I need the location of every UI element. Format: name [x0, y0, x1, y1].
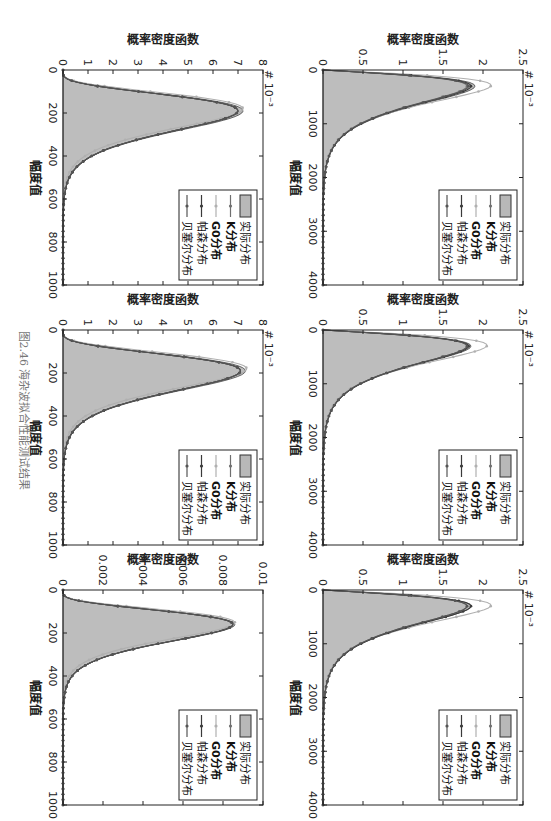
- y-tick-label: 3: [131, 59, 144, 66]
- chart-panel-row1-col2: 00.511.522.510002000300040000# 10⁻³幅度值概率…: [282, 300, 531, 555]
- legend-label: 贝塞尔分布: [440, 741, 454, 796]
- y-tick-label: 8: [256, 319, 269, 326]
- legend-label: K分布: [484, 741, 498, 772]
- y-tick-label: 0.5: [356, 309, 369, 327]
- x-tick-label: 600: [46, 449, 59, 470]
- legend-label: G0分布: [469, 741, 483, 780]
- y-tick-label: 2: [106, 319, 119, 326]
- x-tick-label: 2000: [306, 424, 319, 452]
- rotated-page: 00.511.522.510002000300040000# 10⁻³幅度值概率…: [0, 0, 551, 821]
- legend-label: 实际分布: [498, 741, 512, 785]
- chart-svg: 01234567820040060080010000# 10⁻³幅度值概率密度函…: [26, 40, 271, 295]
- legend-label: K分布: [484, 481, 498, 512]
- legend-label: 贝塞尔分布: [180, 741, 194, 796]
- y-tick-label: 4: [156, 319, 169, 326]
- y-multiplier: # 10⁻³: [522, 70, 535, 107]
- legend-label: 实际分布: [238, 221, 252, 265]
- svg-text:0: 0: [306, 67, 319, 74]
- y-tick-label: 7: [231, 59, 244, 66]
- x-tick-label: 1000: [46, 791, 59, 819]
- x-tick-label: 4000: [306, 271, 319, 299]
- legend-label: 贝塞尔分布: [440, 481, 454, 536]
- legend-label: K分布: [484, 221, 498, 252]
- x-axis-label: 幅度值: [288, 680, 303, 716]
- legend: 实际分布K分布G0分布帕森分布贝塞尔分布: [439, 710, 517, 800]
- y-tick-label: 4: [156, 59, 169, 66]
- y-multiplier: # 10⁻³: [522, 330, 535, 367]
- y-tick-label: 2: [476, 59, 489, 66]
- x-tick-label: 800: [46, 492, 59, 513]
- chart-svg: 00.511.522.510002000300040000# 10⁻³幅度值概率…: [286, 300, 531, 555]
- chart-svg: 00.511.522.510002000300040000# 10⁻³幅度值概率…: [286, 40, 531, 295]
- legend: 实际分布K分布G0分布帕森分布贝塞尔分布: [439, 450, 517, 540]
- legend-label: 实际分布: [238, 741, 252, 785]
- y-tick-label: 2.5: [516, 569, 529, 587]
- x-tick-label: 200: [46, 623, 59, 644]
- x-tick-label: 400: [46, 666, 59, 687]
- svg-text:0: 0: [306, 327, 319, 334]
- legend-label: 实际分布: [498, 481, 512, 525]
- chart-panel-row2-col1: 01234567820040060080010000# 10⁻³幅度值概率密度函…: [22, 40, 271, 295]
- x-tick-label: 1000: [306, 370, 319, 398]
- x-tick-label: 1000: [306, 630, 319, 658]
- y-tick-label: 5: [181, 59, 194, 66]
- y-tick-label: 2: [106, 59, 119, 66]
- y-axis-label: 概率密度函数: [127, 292, 200, 307]
- y-tick-label: 0.008: [216, 555, 229, 587]
- y-tick-label: 2.5: [516, 49, 529, 67]
- x-tick-label: 800: [46, 752, 59, 773]
- chart-svg: 00.0020.0040.0060.0080.01200400600800100…: [26, 560, 271, 815]
- legend-label: 帕森分布: [195, 741, 209, 785]
- legend-label: G0分布: [209, 741, 223, 780]
- y-tick-label: 1.5: [436, 569, 449, 587]
- y-tick-label: 2.5: [516, 309, 529, 327]
- x-axis-label: 幅度值: [288, 420, 303, 456]
- x-tick-label: 4000: [306, 531, 319, 559]
- y-tick-label: 6: [206, 59, 219, 66]
- y-tick-label: 0: [56, 579, 69, 586]
- legend-label: 帕森分布: [195, 481, 209, 525]
- legend-label: 帕森分布: [195, 221, 209, 265]
- y-tick-label: 5: [181, 319, 194, 326]
- chart-panel-row2-col3: 00.0020.0040.0060.0080.01200400600800100…: [22, 560, 271, 815]
- legend-label: G0分布: [209, 481, 223, 520]
- x-tick-label: 400: [46, 406, 59, 427]
- y-tick-label: 1: [81, 59, 94, 66]
- x-tick-label: 2000: [306, 684, 319, 712]
- y-tick-label: 1: [396, 59, 409, 66]
- y-tick-label: 0: [316, 579, 329, 586]
- x-tick-label: 4000: [306, 791, 319, 819]
- y-tick-label: 0.5: [356, 49, 369, 67]
- x-tick-label: 800: [46, 232, 59, 253]
- x-tick-label: 1000: [46, 271, 59, 299]
- chart-svg: 00.511.522.510002000300040000# 10⁻³幅度值概率…: [286, 560, 531, 815]
- y-tick-label: 0: [316, 59, 329, 66]
- y-axis-label: 概率密度函数: [127, 32, 200, 47]
- x-axis-label: 幅度值: [288, 160, 303, 196]
- legend-label: 帕森分布: [455, 741, 469, 785]
- y-axis-label: 概率密度函数: [387, 292, 460, 307]
- legend: 实际分布K分布G0分布帕森分布贝塞尔分布: [439, 190, 517, 280]
- y-axis-label: 概率密度函数: [387, 552, 460, 567]
- x-tick-label: 1000: [306, 110, 319, 138]
- y-multiplier: # 10⁻³: [262, 70, 275, 107]
- legend-label: 实际分布: [498, 221, 512, 265]
- svg-text:0: 0: [46, 67, 59, 74]
- x-tick-label: 600: [46, 189, 59, 210]
- y-tick-label: 0: [316, 319, 329, 326]
- legend-label: G0分布: [209, 221, 223, 260]
- legend-label: 贝塞尔分布: [180, 481, 194, 536]
- legend-label: G0分布: [469, 481, 483, 520]
- y-tick-label: 6: [206, 319, 219, 326]
- y-tick-label: 1: [396, 579, 409, 586]
- legend-label: 贝塞尔分布: [440, 221, 454, 276]
- x-tick-label: 200: [46, 103, 59, 124]
- y-tick-label: 0: [56, 59, 69, 66]
- chart-svg: 01234567820040060080010000# 10⁻³幅度值概率密度函…: [26, 300, 271, 555]
- x-tick-label: 2000: [306, 164, 319, 192]
- figure-caption: 图2.46 海杂波拟合性能测试结果: [17, 0, 33, 821]
- y-tick-label: 7: [231, 319, 244, 326]
- svg-text:0: 0: [306, 587, 319, 594]
- y-tick-label: 8: [256, 59, 269, 66]
- chart-panel-row1-col1: 00.511.522.510002000300040000# 10⁻³幅度值概率…: [282, 40, 531, 295]
